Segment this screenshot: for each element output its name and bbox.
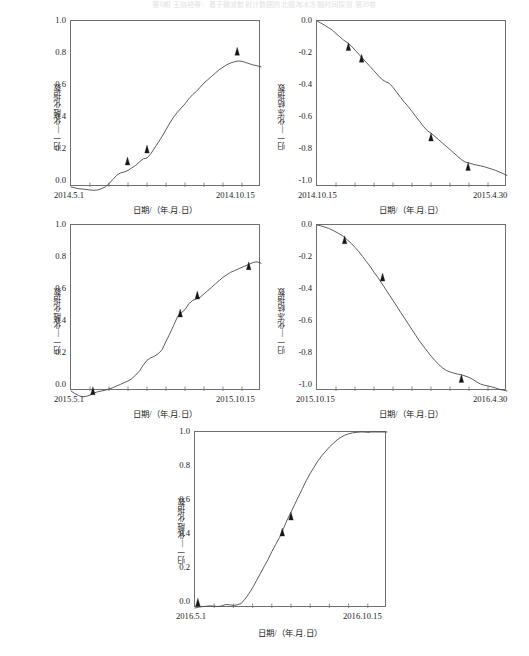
sample-markers [196,512,294,606]
figure-page: 第6期 王晓艳等：基于微波散射计数据的北极海冰冻融时间探测 第38卷 归一—化融… [0,0,529,656]
x-minor-ticks [90,387,242,392]
plot-area [194,431,386,607]
y-tick-label: -0.8 [282,144,312,153]
y-tick-label: -0.2 [282,48,312,57]
x-axis-title: 日期/（年.月.日） [346,203,476,215]
y-tick-label: -0.4 [282,284,312,293]
data-curve [71,262,261,397]
x-tick-label-start: 2015.10.15 [296,394,335,404]
x-minor-ticks [336,387,488,392]
x-axis-title: 日期/（年.月.日） [225,626,355,638]
y-tick-label: 0.2 [38,144,66,153]
x-tick-label-start: 2014.10.15 [298,190,337,200]
plot-area [316,224,506,390]
x-axis-title: 日期/（年.月.日） [346,407,476,419]
y-tick-label: 0.4 [38,316,66,325]
sample-markers [91,262,251,395]
y-tick-label: 0.8 [162,461,190,470]
y-tick-label: -0.4 [282,80,312,89]
x-tick-label-start: 2014.5.1 [54,190,84,200]
x-tick-label-end: 2015.10.15 [216,394,255,404]
y-tick-label: 0.6 [38,80,66,89]
x-tick-label-end: 2016.4.30 [473,394,507,404]
page-header-cut-text: 第6期 王晓艳等：基于微波散射计数据的北极海冰冻融时间探测 第38卷 [0,0,529,10]
x-minor-ticks [90,183,242,188]
chart-panel-melt-2015: 归一—化融化指数 1.0 0.8 0.6 0.4 0.2 0.0 [24,218,269,418]
y-tick-label: -0.6 [282,316,312,325]
data-curve [317,21,507,175]
plot-svg [195,432,387,608]
plot-area [70,20,260,186]
y-tick-label: 0.2 [38,348,66,357]
plot-svg [71,225,261,391]
chart-panel-melt-2016: 归一—化融化指数 1.0 0.8 0.6 0.4 0.2 0.0 [150,420,400,650]
y-tick-label: 0.0 [282,16,312,25]
data-curve [71,61,261,190]
plot-svg [71,21,261,187]
y-tick-label: -1.0 [282,380,312,389]
y-tick-label: 0.6 [38,284,66,293]
y-tick-label: 1.0 [38,16,66,25]
y-tick-label: 0.8 [38,252,66,261]
x-tick-label-end: 2016.10.15 [343,611,382,621]
x-axis-title: 日期/（年.月.日） [100,203,230,215]
y-tick-label: 0.4 [162,529,190,538]
plot-svg [317,21,507,187]
x-minor-ticks [336,183,488,188]
y-tick-label: -0.8 [282,348,312,357]
plot-svg [317,225,507,391]
y-tick-label: 0.0 [162,597,190,606]
y-tick-label: 1.0 [162,427,190,436]
y-tick-label: 0.0 [282,220,312,229]
chart-panel-melt-2014: 归一—化融化指数 1.0 0.8 0.6 0.4 0.2 0.0 [24,14,269,214]
y-tick-label: -0.2 [282,252,312,261]
x-tick-label-start: 2015.5.1 [54,394,84,404]
x-axis-title: 日期/（年.月.日） [100,407,230,419]
chart-panel-freeze-2015: 归一—化冻结指数 0.0 -0.2 -0.4 -0.6 -0.8 -1.0 [274,218,524,418]
plot-area [316,20,506,186]
y-tick-label: 0.4 [38,112,66,121]
y-tick-label: -1.0 [282,176,312,185]
x-tick-label-end: 2015.4.30 [473,190,507,200]
y-tick-label: 1.0 [38,220,66,229]
y-tick-label: -0.6 [282,112,312,121]
y-tick-label: 0.0 [38,176,66,185]
y-tick-label: 0.0 [38,380,66,389]
x-minor-ticks [214,604,368,609]
x-tick-label-start: 2016.5.1 [176,611,206,621]
sample-markers [342,236,463,383]
y-tick-label: 0.2 [162,563,190,572]
y-tick-label: 0.8 [38,48,66,57]
chart-panel-freeze-2014: 归一—化冻结指数 0.0 -0.2 -0.4 -0.6 -0.8 -1.0 [274,14,524,214]
plot-area [70,224,260,390]
data-curve [317,225,507,391]
y-tick-label: 0.6 [162,495,190,504]
x-tick-label-end: 2014.10.15 [216,190,255,200]
